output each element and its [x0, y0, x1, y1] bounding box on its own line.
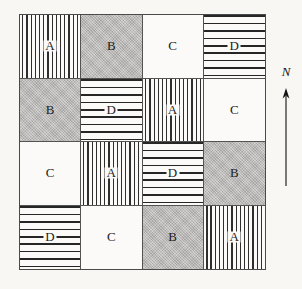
- plot-treatment-label: B: [204, 166, 265, 179]
- plot-cell-r3c3: D: [143, 142, 204, 206]
- plot-treatment-label: A: [143, 103, 203, 116]
- plot-treatment-label: D: [20, 230, 80, 243]
- plot-treatment-label: D: [204, 39, 265, 52]
- plot-cell-r1c1: A: [20, 15, 81, 79]
- plot-cell-r2c3: A: [143, 79, 204, 143]
- plot-cell-r4c1: D: [20, 206, 81, 270]
- north-label: N: [272, 64, 300, 80]
- plot-grid: ABCDBDACCADBDCBA: [19, 14, 266, 270]
- plot-treatment-label: B: [81, 39, 141, 52]
- north-indicator: N: [272, 64, 300, 196]
- plot-cell-r4c4: A: [204, 206, 265, 270]
- plot-treatment-label: B: [143, 230, 203, 243]
- plot-treatment-label: C: [204, 103, 265, 116]
- plot-cell-r2c4: C: [204, 79, 265, 143]
- plot-cell-r1c2: B: [81, 15, 142, 79]
- plot-treatment-label: A: [81, 166, 141, 179]
- plot-cell-r3c4: B: [204, 142, 265, 206]
- plot-treatment-label: C: [143, 39, 203, 52]
- plot-treatment-label: C: [81, 230, 141, 243]
- plot-cell-r4c3: B: [143, 206, 204, 270]
- plot-treatment-label: A: [204, 230, 265, 243]
- plot-cell-r3c2: A: [81, 142, 142, 206]
- plot-cell-r2c2: D: [81, 79, 142, 143]
- field-plot-figure: ABCDBDACCADBDCBA N: [0, 0, 302, 289]
- north-arrow-icon: [272, 86, 300, 190]
- plot-treatment-label: D: [143, 166, 203, 179]
- plot-treatment-label: A: [20, 39, 80, 52]
- plot-cell-r2c1: B: [20, 79, 81, 143]
- plot-cell-r1c4: D: [204, 15, 265, 79]
- plot-cell-r3c1: C: [20, 142, 81, 206]
- plot-treatment-label: D: [81, 103, 141, 116]
- plot-cell-r4c2: C: [81, 206, 142, 270]
- plot-treatment-label: C: [20, 166, 80, 179]
- plot-treatment-label: B: [20, 103, 80, 116]
- plot-cell-r1c3: C: [143, 15, 204, 79]
